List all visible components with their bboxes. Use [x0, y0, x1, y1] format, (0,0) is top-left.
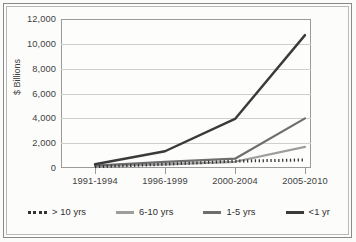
y-tick-label: 12,000 [27, 14, 56, 24]
legend-item-lt1yr[interactable]: <1 yr [286, 207, 330, 217]
y-tick-label: 8,000 [32, 64, 56, 74]
x-tick-label: 2005-2010 [282, 176, 327, 186]
legend-item-gt10yrs[interactable]: > 10 yrs [28, 207, 86, 217]
series-lines [61, 19, 311, 168]
legend-label: 1-5 yrs [226, 207, 255, 217]
chart-figure: $ Billions 12,000 10,000 8,000 6,000 4,0… [0, 0, 356, 242]
plot-area [61, 19, 311, 168]
x-tick-label: 2000-2004 [212, 176, 257, 186]
legend-line-icon [116, 211, 134, 214]
legend-label: 6-10 yrs [139, 207, 173, 217]
legend-label: > 10 yrs [52, 207, 86, 217]
series-line--1-yr [95, 35, 305, 164]
legend-item-6to10yrs[interactable]: 6-10 yrs [116, 207, 173, 217]
y-tick-label: 10,000 [27, 39, 56, 49]
legend-label: <1 yr [309, 207, 330, 217]
x-tick-mark [305, 168, 306, 174]
y-axis-title: $ Billions [12, 47, 22, 107]
legend-line-icon [28, 211, 47, 214]
y-tick-label: 0 [51, 163, 56, 173]
x-axis: 1991-1994 1996-1999 2000-2004 2005-2010 [61, 176, 311, 192]
y-tick-label: 2,000 [32, 138, 56, 148]
y-tick-label: 4,000 [32, 113, 56, 123]
x-tick-label: 1996-1999 [142, 176, 187, 186]
x-tick-mark [235, 168, 236, 174]
legend-item-1to5yrs[interactable]: 1-5 yrs [203, 207, 255, 217]
y-axis: $ Billions 12,000 10,000 8,000 6,000 4,0… [0, 0, 61, 200]
x-tick-label: 1991-1994 [72, 176, 117, 186]
chart-legend: > 10 yrs 6-10 yrs 1-5 yrs <1 yr [14, 202, 344, 222]
x-tick-mark [95, 168, 96, 174]
legend-line-icon [286, 211, 304, 214]
y-tick-label: 6,000 [32, 89, 56, 99]
legend-line-icon [203, 211, 221, 214]
x-tick-mark [165, 168, 166, 174]
